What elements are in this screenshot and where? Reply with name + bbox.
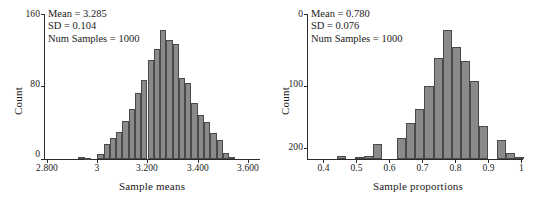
y-tickmark-0 [41,159,44,160]
y-axis-title-right: Count [279,87,291,115]
histogram-bar [515,157,524,159]
y-tick-label-80: 80 [10,79,40,89]
histogram-bar [337,156,346,159]
histogram-bar [373,144,382,159]
sd-label-right: SD = 0.076 [311,20,402,32]
mean-label-right: Mean = 0.780 [311,8,402,20]
histogram-panel-sample-means: Count 160 80 0 2.800 3 3.200 3.400 3.600… [0,0,266,202]
histogram-bar [364,156,373,160]
histogram-bar [397,138,406,159]
x-tick-label-3200: 3.200 [127,163,167,173]
histogram-bar [452,47,461,159]
histogram-bar [461,61,470,159]
x-axis-title-right: Sample proportions [333,180,503,192]
y-tick-label-100: 100 [273,79,303,89]
histogram-bar [497,140,506,159]
histogram-bar [424,86,433,160]
x-tick-label-3000: 3 [77,163,117,173]
histogram-bar [415,109,424,159]
y-tick-label-0: 0 [273,9,303,19]
histogram-bar [355,157,364,159]
histogram-bar [85,158,91,160]
figure-two-histograms: Count 160 80 0 2.800 3 3.200 3.400 3.600… [0,0,533,202]
stats-annotation-right: Mean = 0.780 SD = 0.076 Num Samples = 10… [311,8,402,45]
x-tick-label-3600: 3.600 [228,163,268,173]
x-axis-title-left: Sample means [72,180,232,192]
histogram-bar [443,30,452,160]
y-tick-label-0: 0 [10,149,40,159]
y-tick-label-200: 200 [273,142,303,152]
mean-label-left: Mean = 3.285 [48,8,139,20]
x-axis-line-right [307,159,523,160]
histogram-panel-sample-proportions: Count 0 100 200 0.4 0.5 0.6 0.7 0.8 0.9 … [267,0,533,202]
num-samples-label-left: Num Samples = 1000 [48,33,139,45]
histogram-bar [479,126,488,159]
histogram-bar [434,58,443,160]
histogram-bar [506,153,515,159]
y-axis-title-left: Count [12,87,24,115]
x-tick-label-3400: 3.400 [178,163,218,173]
stats-annotation-left: Mean = 3.285 SD = 0.104 Num Samples = 10… [48,8,139,45]
x-axis-line-left [44,159,260,160]
y-tick-label-160: 160 [10,9,40,19]
num-samples-label-right: Num Samples = 1000 [311,33,402,45]
histogram-bar [229,157,235,159]
histogram-bar [406,123,415,159]
sd-label-left: SD = 0.104 [48,20,139,32]
histogram-bar [470,81,479,159]
x-tick-label-2800: 2.800 [27,163,67,173]
x-tick-label-1: 1 [502,163,533,173]
